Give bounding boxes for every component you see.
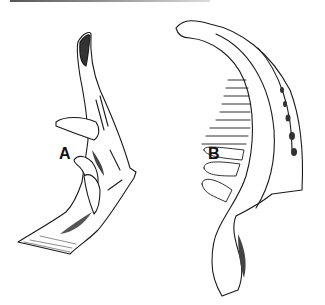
specimen-a-drawing [18,32,136,254]
label-b: B [208,145,220,163]
illustration [0,0,325,305]
label-a: A [59,145,71,163]
specimen-b-drawing [176,21,303,296]
